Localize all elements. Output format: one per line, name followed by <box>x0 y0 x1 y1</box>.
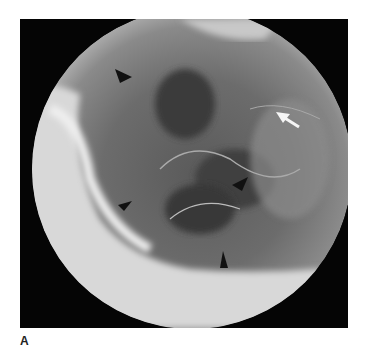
radiograph-image <box>20 19 348 328</box>
panel-label: A <box>20 334 29 348</box>
radiograph-frame <box>20 19 348 328</box>
